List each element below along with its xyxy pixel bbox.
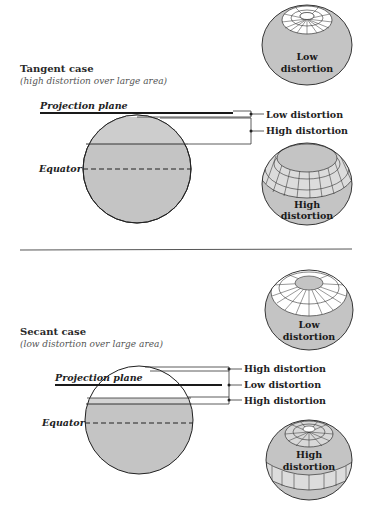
secant-low-distortion-globe: Low distortion [265,268,353,350]
secant-projection-plane-label: Projection plane [54,372,143,383]
secant-section: Secant case (low distortion over large a… [20,268,356,500]
secant-globe-bottom-line1: High [296,449,322,460]
secant-globe-top-line1: Low [298,319,320,330]
projection-distortion-diagram: Tangent case (high distortion over large… [0,0,373,517]
secant-equator-label: Equator [41,417,86,428]
tangent-equator-label: Equator [38,163,83,174]
secant-globe-bottom-line2: distortion [283,461,336,472]
tangent-high-distortion-label: High distortion [266,125,348,136]
tangent-globe-bottom-line2: distortion [281,210,334,221]
secant-low-distortion-label: Low distortion [244,379,321,390]
tangent-high-distortion-globe: High distortion [259,142,355,225]
tangent-section: Tangent case (high distortion over large… [20,5,355,225]
tangent-globe-top-line2: distortion [281,63,334,74]
secant-high-distortion-label-top: High distortion [244,363,326,374]
tangent-globe-bottom-line1: High [294,199,320,210]
tangent-globe-top-line1: Low [296,51,318,62]
section-divider [20,249,352,250]
secant-globe-top-line2: distortion [283,331,336,342]
tangent-title: Tangent case [20,63,94,74]
tangent-low-distortion-globe: Low distortion [262,5,352,85]
secant-high-distortion-globe: High distortion [262,420,356,500]
secant-title: Secant case [20,326,86,337]
tangent-low-distortion-label: Low distortion [266,109,343,120]
tangent-projection-plane-label: Projection plane [39,100,128,111]
tangent-subtitle: (high distortion over large area) [20,76,168,86]
secant-high-distortion-label-bottom: High distortion [244,395,326,406]
secant-subtitle: (low distortion over large area) [20,339,163,349]
tangent-globe [80,110,200,223]
